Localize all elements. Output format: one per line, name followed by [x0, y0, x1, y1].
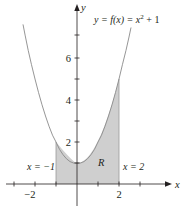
function-label: y = f(x) = x2 + 1 — [93, 13, 159, 26]
x-tick-label-2: 2 — [116, 189, 121, 200]
area-under-curve-plot: −2 2 2 4 6 x y y = f(x) = x2 + 1 x = −1 … — [0, 0, 183, 213]
function-label-suffix: + 1 — [144, 14, 160, 25]
x-axis-arrow-icon — [165, 181, 172, 186]
y-axis-label: y — [80, 2, 86, 13]
region-label-r: R — [97, 157, 105, 168]
y-tick-label-2: 2 — [66, 137, 71, 148]
y-tick-label-6: 6 — [66, 53, 71, 64]
x-tick-label-neg2: −2 — [24, 189, 35, 200]
line-label-x-2: x = 2 — [122, 161, 144, 172]
x-axis-label: x — [174, 179, 180, 190]
function-label-prefix: y = f(x) = x — [93, 14, 141, 26]
line-label-x-neg1: x = −1 — [26, 161, 55, 172]
y-tick-label-4: 4 — [66, 95, 72, 106]
y-axis-arrow-icon — [74, 4, 79, 11]
